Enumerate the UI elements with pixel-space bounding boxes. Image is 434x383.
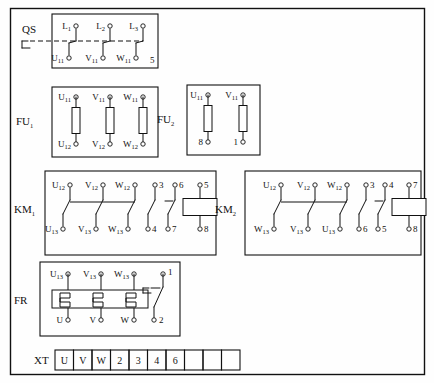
g-km2-main-terminal-top-2[interactable] <box>313 183 317 187</box>
fuse-body <box>72 108 80 134</box>
g-km2-main-terminal-top-1[interactable] <box>279 183 283 187</box>
fuse-body <box>139 108 147 134</box>
fu2-terminal-bottom-label-2: 1 <box>234 137 239 147</box>
g-km1-coil-bottom-node[interactable] <box>198 227 202 231</box>
g-km2-main-terminal-bottom-2[interactable] <box>306 227 310 231</box>
g-km2-coil-bottom-label: 8 <box>413 224 418 234</box>
schematic-canvas: L1L2L3U11V11W115QS U11V11W11U12V12W12FU1… <box>0 0 434 383</box>
g-km1-aux-nc-top-label: 6 <box>179 180 184 190</box>
fuse-body <box>204 106 212 132</box>
g-km1-coil-bottom-label: 8 <box>204 224 209 234</box>
fu1-terminal-bottom-2[interactable] <box>108 142 112 146</box>
g-km1-aux-nc-bottom-label: 7 <box>172 224 177 234</box>
g-km1-main-terminal-bottom-3[interactable] <box>126 227 130 231</box>
g-km1-aux-no-top-node[interactable] <box>153 183 157 187</box>
diagram-sheet: L1L2L3U11V11W115QS U11V11W11U12V12W12FU1… <box>0 0 434 383</box>
qs-terminal-top-1[interactable] <box>74 24 78 28</box>
xt-cell-label-4: 2 <box>117 355 122 366</box>
g-km2-aux-nc-bottom-node[interactable] <box>376 227 380 231</box>
g-km2-aux-nc-top-node[interactable] <box>383 183 387 187</box>
xt-cell-label-1: U <box>61 355 69 366</box>
xt-cell-label-3: W <box>97 355 107 366</box>
xt-block-label: XT <box>34 354 49 366</box>
fu2-terminal-bottom-1[interactable] <box>206 140 210 144</box>
fr-terminal-bottom-label-1: U <box>57 315 64 325</box>
qs-extra-label: 5 <box>150 55 155 65</box>
g-km2-coil-top-node[interactable] <box>407 183 411 187</box>
g-km2-main-terminal-top-3[interactable] <box>345 183 349 187</box>
g-km1-coil-top-label: 5 <box>204 180 209 190</box>
g-km2-aux-no-bottom-label: 6 <box>363 224 368 234</box>
fr-terminal-bottom-label-2: V <box>90 315 97 325</box>
g-km2-aux-nc-bottom-label: 5 <box>382 224 387 234</box>
g-km1-coil-top-node[interactable] <box>198 183 202 187</box>
g-km1-main-terminal-top-1[interactable] <box>68 183 72 187</box>
g-km2-main-terminal-bottom-3[interactable] <box>338 227 342 231</box>
fuse-body <box>106 108 114 134</box>
coil-body <box>392 199 426 216</box>
fuse-body <box>239 106 247 132</box>
qs-terminal-bottom-1[interactable] <box>67 56 71 60</box>
qs-terminal-bottom-2[interactable] <box>101 56 105 60</box>
xt-cell-label-2: V <box>79 355 87 366</box>
fr-block-label: FR <box>14 294 28 306</box>
g-km1-aux-no-bottom-node[interactable] <box>146 227 150 231</box>
fr-terminal-bottom-2[interactable] <box>99 318 103 322</box>
g-km1-aux-nc-top-node[interactable] <box>173 183 177 187</box>
g-km2-aux-nc-top-label: 4 <box>389 180 394 190</box>
fu2-terminal-bottom-label-1: 8 <box>199 137 204 147</box>
g-km1-main-terminal-top-2[interactable] <box>101 183 105 187</box>
g-km1-main-terminal-bottom-2[interactable] <box>94 227 98 231</box>
coil-body <box>183 199 217 216</box>
fu2-terminal-bottom-2[interactable] <box>241 140 245 144</box>
g-km2-aux-no-bottom-node[interactable] <box>357 227 361 231</box>
fr-terminal-bottom-1[interactable] <box>66 318 70 322</box>
fr-terminal-bottom-label-3: W <box>121 315 130 325</box>
g-km2-aux-no-top-node[interactable] <box>364 183 368 187</box>
xt-cell-label-6: 4 <box>154 355 159 366</box>
sheet-background <box>0 0 434 383</box>
qs-block-label: QS <box>22 23 36 35</box>
g-km1-aux-no-bottom-label: 4 <box>152 224 157 234</box>
fr-terminal-bottom-3[interactable] <box>132 318 136 322</box>
g-km1-aux-no-top-label: 3 <box>159 180 164 190</box>
g-km2-main-terminal-bottom-1[interactable] <box>272 227 276 231</box>
g-km2-coil-bottom-node[interactable] <box>407 227 411 231</box>
fu1-terminal-bottom-1[interactable] <box>74 142 78 146</box>
xt-cell-label-7: 6 <box>173 355 178 366</box>
g-km1-main-terminal-bottom-1[interactable] <box>61 227 65 231</box>
qs-terminal-bottom-3[interactable] <box>134 56 138 60</box>
g-km2-coil-top-label: 7 <box>413 180 418 190</box>
fu1-terminal-bottom-3[interactable] <box>141 142 145 146</box>
xt-cell-label-5: 3 <box>136 355 141 366</box>
qs-terminal-top-2[interactable] <box>108 24 112 28</box>
fr-contact-bottom-node[interactable] <box>152 318 156 322</box>
fr-contact-top-label: 1 <box>168 267 173 277</box>
g-km1-main-terminal-top-3[interactable] <box>133 183 137 187</box>
qs-terminal-top-3[interactable] <box>141 24 145 28</box>
g-km1-aux-nc-bottom-node[interactable] <box>166 227 170 231</box>
g-km2-aux-no-top-label: 3 <box>370 180 375 190</box>
fr-contact-bottom-label: 2 <box>159 315 164 325</box>
